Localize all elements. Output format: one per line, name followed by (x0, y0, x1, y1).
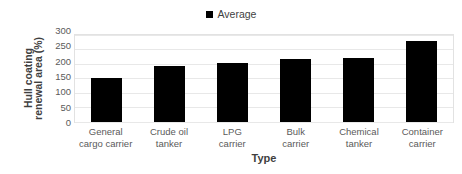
bar-slot-bulk-carrier (264, 35, 327, 122)
x-tick-line-2: carrier (265, 138, 326, 150)
bar-slot-general-cargo-carrier (75, 35, 138, 122)
x-tick-general-cargo-carrier: General cargo carrier (74, 126, 137, 152)
y-axis-title: Hull coating renewal area (%) (16, 30, 50, 126)
x-tick-container-carrier: Container carrier (391, 126, 454, 152)
y-axis-tick-labels: 300 250 200 150 100 50 0 (48, 31, 71, 123)
y-tick-100: 100 (55, 88, 71, 98)
x-tick-line-1: General (75, 126, 136, 138)
y-tick-200: 200 (55, 57, 71, 67)
y-axis-title-line-2: renewal area (%) (33, 37, 44, 120)
x-axis-tick-labels: General cargo carrier Crude oil tanker L… (74, 126, 454, 152)
x-tick-line-2: tanker (138, 138, 199, 150)
bar-slot-lpg-carrier (201, 35, 264, 122)
bar-bulk-carrier[interactable] (280, 59, 311, 122)
bar-general-cargo-carrier[interactable] (91, 78, 122, 122)
bar-group-average (75, 35, 453, 122)
bar-slot-chemical-tanker (327, 35, 390, 122)
bar-chart: Average Hull coating renewal area (%) 30… (0, 0, 462, 174)
x-tick-line-1: LPG (202, 126, 263, 138)
x-tick-line-1: Crude oil (138, 126, 199, 138)
bar-slot-crude-oil-tanker (138, 35, 201, 122)
x-tick-line-2: carrier (202, 138, 263, 150)
y-tick-50: 50 (60, 103, 71, 113)
x-tick-line-1: Bulk (265, 126, 326, 138)
x-tick-line-1: Chemical (328, 126, 389, 138)
x-tick-crude-oil-tanker: Crude oil tanker (137, 126, 200, 152)
y-tick-0: 0 (66, 118, 71, 128)
plot-area (74, 34, 454, 123)
chart-legend: Average (0, 6, 462, 22)
x-axis-title: Type (74, 153, 454, 164)
x-tick-line-2: carrier (392, 138, 453, 150)
legend-label-average: Average (218, 9, 257, 20)
y-tick-150: 150 (55, 72, 71, 82)
bar-lpg-carrier[interactable] (217, 63, 248, 122)
legend-swatch-average (206, 11, 213, 18)
bar-container-carrier[interactable] (406, 41, 437, 122)
gridline-0 (75, 122, 453, 123)
bar-chemical-tanker[interactable] (343, 58, 374, 122)
x-tick-line-2: tanker (328, 138, 389, 150)
x-tick-chemical-tanker: Chemical tanker (327, 126, 390, 152)
bar-slot-container-carrier (390, 35, 453, 122)
x-tick-lpg-carrier: LPG carrier (201, 126, 264, 152)
x-tick-line-2: cargo carrier (75, 138, 136, 150)
bar-crude-oil-tanker[interactable] (154, 66, 185, 122)
x-tick-line-1: Container (392, 126, 453, 138)
x-tick-bulk-carrier: Bulk carrier (264, 126, 327, 152)
y-tick-300: 300 (55, 26, 71, 36)
y-tick-250: 250 (55, 42, 71, 52)
